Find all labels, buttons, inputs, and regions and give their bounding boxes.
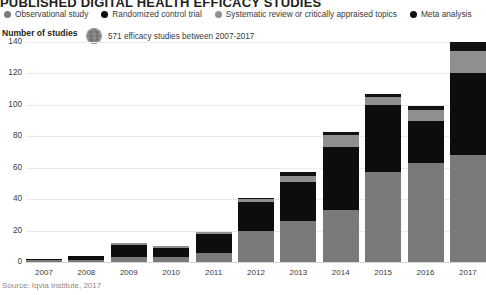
bar-segment (450, 42, 486, 51)
source-caption: Source: Iqvia Institute, 2017 (2, 281, 101, 290)
legend-dot-icon (101, 11, 108, 18)
bar-segment (323, 210, 359, 262)
x-axis-tick-label: 2017 (450, 268, 486, 277)
bar-segment (111, 245, 147, 258)
x-axis-tick-label: 2009 (111, 268, 147, 277)
legend-label: Randomized control trial (112, 9, 201, 19)
y-axis-tick-label: 140 (0, 37, 22, 46)
gridline (26, 262, 486, 263)
bar-segment (450, 155, 486, 262)
legend-item-systematic-review: Systematic review or critically appraise… (215, 9, 397, 19)
bar-column[interactable] (408, 42, 444, 262)
bar-segment (238, 231, 274, 262)
legend-item-observational: Observational study (4, 9, 88, 19)
bar-segment (280, 221, 316, 262)
bar-segment (26, 260, 62, 262)
x-axis-tick-label: 2016 (408, 268, 444, 277)
bar-segment (153, 257, 189, 262)
x-axis-tick-label: 2007 (26, 268, 62, 277)
y-axis-tick-label: 20 (0, 226, 22, 235)
bar-segment (408, 121, 444, 163)
y-axis-tick-label: 100 (0, 100, 22, 109)
x-axis-tick-label: 2012 (238, 268, 274, 277)
bar-column[interactable] (26, 42, 62, 262)
legend-label: Meta analysis (421, 9, 472, 19)
legend-item-randomized: Randomized control trial (101, 9, 201, 19)
bar-column[interactable] (238, 42, 274, 262)
bar-segment (450, 51, 486, 73)
bar-segment (408, 110, 444, 121)
legend-label: Observational study (15, 9, 88, 19)
legend-item-meta-analysis: Meta analysis (410, 9, 472, 19)
y-axis-tick-label: 0 (0, 257, 22, 266)
bar-column[interactable] (450, 42, 486, 262)
bar-segment (153, 248, 189, 257)
chart-legend: Observational study Randomized control t… (4, 9, 485, 19)
bar-segment (238, 202, 274, 230)
legend-dot-icon (4, 11, 11, 18)
y-axis-tick-label: 40 (0, 194, 22, 203)
legend-dot-icon (215, 11, 222, 18)
bar-segment (365, 105, 401, 173)
y-axis-tick-label: 120 (0, 68, 22, 77)
bar-segment (280, 182, 316, 221)
bar-column[interactable] (153, 42, 189, 262)
x-axis-tick-label: 2013 (280, 268, 316, 277)
bar-segment (196, 234, 232, 253)
bar-segment (408, 163, 444, 262)
legend-dot-icon (410, 11, 417, 18)
bar-segment (365, 97, 401, 105)
bar-column[interactable] (68, 42, 104, 262)
bar-segment (365, 172, 401, 262)
summary-note-text: 571 efficacy studies between 2007-2017 (108, 32, 254, 41)
bar-segment (323, 135, 359, 148)
bar-column[interactable] (365, 42, 401, 262)
x-axis-tick-label: 2015 (365, 268, 401, 277)
x-axis-tick-label: 2010 (153, 268, 189, 277)
bar-segment (450, 73, 486, 155)
x-axis-labels: 2007200820092010201120122013201420152016… (26, 268, 486, 277)
legend-label: Systematic review or critically appraise… (226, 9, 397, 19)
bar-series-container (26, 42, 486, 262)
x-axis-tick-label: 2011 (196, 268, 232, 277)
bar-segment (68, 260, 104, 262)
y-axis-tick-label: 60 (0, 163, 22, 172)
bar-segment (196, 253, 232, 262)
bar-column[interactable] (280, 42, 316, 262)
chart-plot-area: 020406080100120140 (0, 42, 486, 266)
bar-column[interactable] (196, 42, 232, 262)
y-axis-tick-label: 80 (0, 131, 22, 140)
bar-column[interactable] (111, 42, 147, 262)
x-axis-tick-label: 2014 (323, 268, 359, 277)
bar-segment (323, 147, 359, 210)
x-axis-tick-label: 2008 (68, 268, 104, 277)
bar-column[interactable] (323, 42, 359, 262)
bar-segment (111, 257, 147, 262)
